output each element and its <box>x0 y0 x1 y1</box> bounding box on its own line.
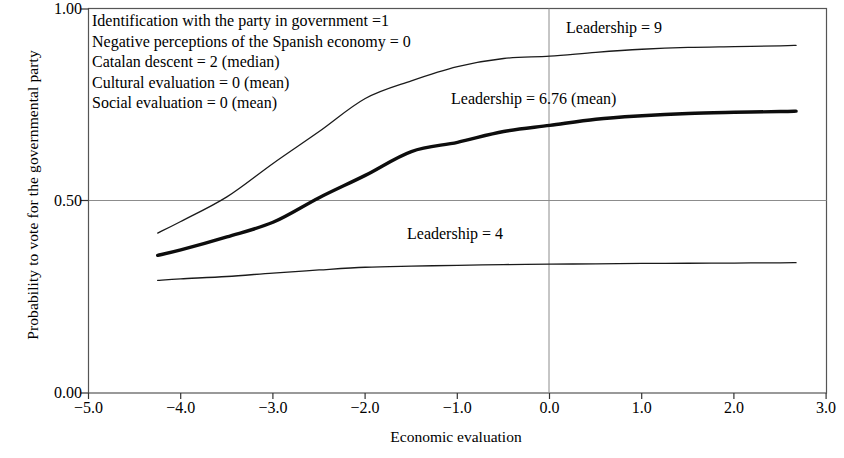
x-tick-label-zero: 0.0 <box>515 399 585 417</box>
y-axis-ticks <box>81 9 89 393</box>
parameter-annotations: Identification with the party in governm… <box>92 11 411 114</box>
x-tick-label-minus5: −5.0 <box>54 399 124 417</box>
y-tick-label-050: 0.50 <box>26 193 82 209</box>
x-tick-label-minus4: −4.0 <box>146 399 216 417</box>
x-tick-label-minus3: −3.0 <box>238 399 308 417</box>
curve-label-leadership-4: Leadership = 4 <box>407 224 503 245</box>
curve-label-leadership-9: Leadership = 9 <box>566 18 662 39</box>
parameter-line-social-evaluation: Social evaluation = 0 (mean) <box>92 93 411 114</box>
x-tick-label-one: 1.0 <box>607 399 677 417</box>
parameter-line-identification: Identification with the party in governm… <box>92 11 411 32</box>
x-tick-label-two: 2.0 <box>699 399 769 417</box>
curve-label-leadership-676: Leadership = 6.76 (mean) <box>451 89 616 110</box>
parameter-line-cultural-evaluation: Cultural evaluation = 0 (mean) <box>92 73 411 94</box>
chart-figure: Probability to vote for the governmental… <box>0 0 844 458</box>
curve-leadership-4 <box>158 263 796 281</box>
x-tick-label-minus2: −2.0 <box>330 399 400 417</box>
y-tick-label-100: 1.00 <box>26 1 82 17</box>
x-axis-title: Economic evaluation <box>0 428 844 446</box>
parameter-line-catalan-descent: Catalan descent = 2 (median) <box>92 52 411 73</box>
parameter-line-negative-perceptions: Negative perceptions of the Spanish econ… <box>92 32 411 53</box>
x-tick-label-minus1: −1.0 <box>422 399 492 417</box>
x-tick-label-three: 3.0 <box>791 399 844 417</box>
